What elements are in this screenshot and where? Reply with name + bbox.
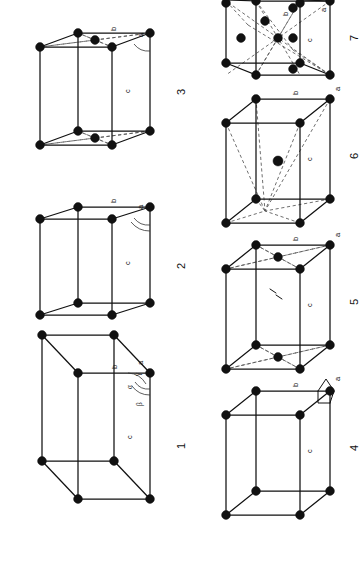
cell-1-vertices	[38, 331, 155, 504]
cell-6-number: 6	[348, 153, 360, 159]
cell-2-number: 2	[175, 263, 187, 269]
cell-1-label-b: b	[110, 365, 119, 369]
cell-3-edges	[40, 33, 150, 145]
cell-1-label-c: c	[125, 435, 134, 439]
unit-cell-5: c b a 5	[222, 232, 360, 373]
cell-4-label-a: a	[333, 376, 342, 381]
unit-cell-4: c b a 4	[222, 376, 360, 519]
cell-6-vertices	[222, 95, 335, 228]
cell-3-angle-arcs	[134, 44, 150, 51]
unit-cell-2: c b a 2	[36, 199, 187, 320]
cell-1-angle-arcs	[128, 373, 150, 395]
cell-5-edges	[226, 245, 330, 369]
unit-cell-3: c b a 3	[36, 27, 187, 150]
cell-3-centering-dashes	[40, 33, 150, 145]
cell-4-label-c: c	[305, 449, 314, 453]
cell-1-label-alpha: α	[125, 385, 134, 389]
cell-7-face-center-atom	[289, 65, 298, 74]
figure-sheet: c b α β γ a 1	[0, 0, 360, 561]
cell-3-base-center-atom	[91, 134, 100, 143]
unit-cell-7: c b a 7	[222, 0, 360, 79]
cell-5-label-b: b	[291, 237, 300, 241]
cell-5-label-c: c	[305, 303, 314, 307]
cell-4-vertices	[222, 387, 335, 520]
cell-4-number: 4	[348, 445, 360, 451]
cell-7-label-c: c	[305, 38, 314, 42]
cell-1-label-gamma: γ	[133, 372, 142, 377]
cell-4-label-b: b	[291, 383, 300, 387]
unit-cell-diagram: c b α β γ a 1	[0, 0, 360, 561]
cell-7-label-b: b	[281, 12, 290, 16]
cell-5-vertices	[222, 241, 335, 374]
rotated-figure-canvas: c b α β γ a 1	[0, 0, 360, 561]
cell-7-face-center-atom	[289, 34, 298, 43]
cell-6-body-center-atom	[273, 156, 283, 166]
cell-2-label-b: b	[109, 199, 118, 203]
cell-2-edges	[40, 207, 150, 315]
cell-7-face-center-atom	[237, 34, 246, 43]
cell-6-label-a: a	[333, 86, 342, 91]
cell-7-number: 7	[348, 35, 360, 41]
cell-3-label-c: c	[123, 89, 132, 93]
cell-3-label-a: a	[136, 32, 145, 37]
cell-1-edges	[42, 335, 150, 499]
cell-1-number: 1	[175, 443, 187, 449]
cell-2-label-a: a	[136, 204, 145, 209]
cell-5-label-a: a	[333, 232, 342, 237]
cell-7-label-a: a	[319, 7, 328, 12]
unit-cell-1: c b α β γ a 1	[38, 331, 187, 504]
unit-cell-6: c b a 6	[222, 86, 360, 227]
cell-5-base-center-atom	[274, 353, 283, 362]
cell-7-face-center-atom	[274, 34, 283, 43]
cell-1-label-a: a	[136, 360, 145, 365]
cell-5-centering-dashes	[226, 245, 330, 369]
cell-2-label-c: c	[123, 261, 132, 265]
cell-3-label-b: b	[109, 27, 118, 31]
cell-1-label-beta: β	[135, 402, 144, 406]
cell-2-vertices	[36, 203, 155, 320]
cell-6-label-b: b	[291, 91, 300, 95]
cell-3-number: 3	[175, 89, 187, 95]
cell-7-face-center-atom	[261, 17, 270, 26]
cell-2-angle-arcs	[131, 218, 150, 231]
cell-6-label-c: c	[305, 157, 314, 161]
cell-4-edges	[226, 391, 330, 515]
cell-5-number: 5	[348, 299, 360, 305]
cell-5-base-center-atom	[274, 253, 283, 262]
cell-5-right-angle-marks	[270, 289, 282, 299]
cell-3-base-center-atom	[91, 36, 100, 45]
